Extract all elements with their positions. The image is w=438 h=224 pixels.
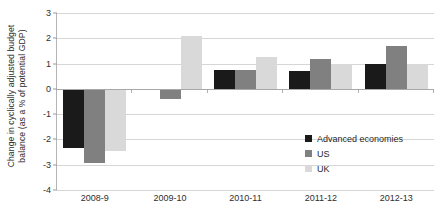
bar[interactable] (310, 59, 331, 89)
bar[interactable] (365, 64, 386, 89)
bar-group (132, 13, 207, 190)
y-tick-label: 1 (46, 59, 51, 69)
zero-axis-line (57, 89, 434, 90)
bar-slot (235, 13, 256, 190)
bar-slot (214, 13, 235, 190)
legend-item[interactable]: Advanced economies (305, 131, 403, 146)
legend-label: US (317, 149, 330, 159)
legend-swatch-icon (305, 150, 312, 157)
bar[interactable] (289, 71, 310, 89)
bar-group-bars (208, 13, 283, 190)
x-tick-label: 2010-11 (208, 193, 283, 203)
x-tick-label: 2008-9 (57, 193, 132, 203)
bar-group-bars (132, 13, 207, 190)
legend-item[interactable]: US (305, 146, 403, 161)
legend: Advanced economiesUSUK (305, 131, 403, 176)
x-tick-label: 2012-13 (359, 193, 434, 203)
chart-container: Change in cyclically adjusted budget bal… (0, 0, 438, 224)
bar[interactable] (235, 70, 256, 89)
bar-slot (139, 13, 160, 190)
bar-slot (256, 13, 277, 190)
y-tick-label: -3 (43, 160, 51, 170)
bar-slot (181, 13, 202, 190)
bar-group (57, 13, 132, 190)
bar-slot (407, 13, 428, 190)
legend-swatch-icon (305, 165, 312, 172)
bar[interactable] (386, 46, 407, 89)
gridline (57, 190, 434, 191)
legend-label: Advanced economies (317, 134, 403, 144)
legend-swatch-icon (305, 135, 312, 142)
bar[interactable] (105, 89, 126, 151)
bar-slot (84, 13, 105, 190)
bar-slot (105, 13, 126, 190)
bar-group-bars (57, 13, 132, 190)
bar-group (208, 13, 283, 190)
x-tick-label: 2011-12 (283, 193, 358, 203)
bar[interactable] (63, 89, 84, 148)
y-tick-label: -1 (43, 109, 51, 119)
bar[interactable] (181, 36, 202, 89)
bar[interactable] (84, 89, 105, 164)
bar[interactable] (160, 89, 181, 99)
bar[interactable] (256, 57, 277, 89)
x-axis-tick-labels: 2008-92009-102010-112011-122012-13 (57, 193, 434, 203)
bar-slot (63, 13, 84, 190)
y-tick-label: -4 (43, 185, 51, 195)
bar[interactable] (331, 64, 352, 89)
bar-slot (160, 13, 181, 190)
y-tick-label: 3 (46, 8, 51, 18)
y-axis-title: Change in cyclically adjusted budget bal… (2, 0, 32, 196)
legend-item[interactable]: UK (305, 161, 403, 176)
bar[interactable] (407, 64, 428, 89)
x-tick-label: 2009-10 (132, 193, 207, 203)
y-tick-label: 2 (46, 33, 51, 43)
legend-label: UK (317, 164, 330, 174)
bar[interactable] (214, 70, 235, 89)
y-tick-label: -2 (43, 134, 51, 144)
y-tick-label: 0 (46, 84, 51, 94)
